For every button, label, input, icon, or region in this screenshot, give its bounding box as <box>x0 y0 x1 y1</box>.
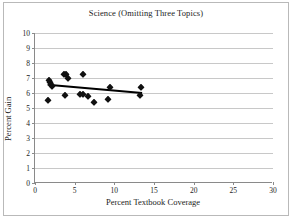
chart-figure: Science (Omitting Three Topics) Percent … <box>0 0 292 219</box>
y-axis-title: Percent Gain <box>3 97 13 141</box>
y-tick-label: 3 <box>26 134 30 143</box>
x-tick-label: 10 <box>111 186 119 195</box>
x-tick-label: 30 <box>269 186 277 195</box>
y-tick-label: 9 <box>26 44 30 53</box>
x-tick-label: 20 <box>190 186 198 195</box>
chart-title: Science (Omitting Three Topics) <box>0 8 292 18</box>
y-tick-label: 2 <box>26 149 30 158</box>
y-tick-label: 6 <box>26 89 30 98</box>
y-tick-label: 1 <box>26 164 30 173</box>
trend-line <box>35 33 273 183</box>
trend-line-segment <box>48 85 142 93</box>
x-tick-label: 15 <box>150 186 158 195</box>
y-tick-label: 4 <box>26 119 30 128</box>
y-tick-label: 10 <box>23 29 31 38</box>
x-tick-mark <box>273 182 274 185</box>
y-tick-label: 7 <box>26 74 30 83</box>
plot-area: Percent Gain 012345678910 051015202530 <box>34 33 272 183</box>
x-tick-label: 25 <box>230 186 238 195</box>
y-tick-label: 8 <box>26 59 30 68</box>
y-tick-label: 5 <box>26 104 30 113</box>
x-tick-label: 0 <box>33 186 37 195</box>
x-axis-title: Percent Textbook Coverage <box>34 197 272 207</box>
y-tick-label: 0 <box>26 179 30 188</box>
x-tick-label: 5 <box>73 186 77 195</box>
